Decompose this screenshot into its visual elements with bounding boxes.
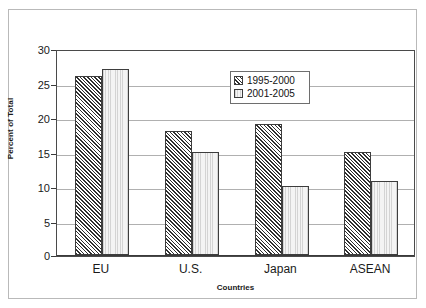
bar[interactable] — [255, 124, 282, 255]
legend-swatch-icon — [234, 89, 243, 98]
bar[interactable] — [192, 152, 219, 255]
legend-item-label: 1995-2000 — [247, 76, 295, 86]
legend-item[interactable]: 1995-2000 — [234, 74, 306, 87]
x-tick-label: EU — [93, 262, 110, 276]
x-axis-line — [57, 255, 414, 256]
legend-item[interactable]: 2001-2005 — [234, 87, 306, 100]
chart-figure: 30 25 20 15 10 5 0 Percent of Total — [0, 0, 426, 308]
bar[interactable] — [102, 69, 129, 255]
bar[interactable] — [344, 152, 371, 255]
chart-legend: 1995-2000 2001-2005 — [230, 71, 310, 104]
bar-group — [326, 49, 416, 255]
x-tick-label: Japan — [264, 262, 297, 276]
legend-item-label: 2001-2005 — [247, 89, 295, 99]
x-tick-label: U.S. — [179, 262, 202, 276]
bar[interactable] — [165, 131, 192, 255]
legend-swatch-icon — [234, 76, 243, 85]
bar[interactable] — [282, 186, 309, 255]
bar-group — [57, 49, 147, 255]
x-axis-tick-labels: EU U.S. Japan ASEAN — [56, 262, 415, 282]
x-axis-title: Countries — [56, 283, 415, 292]
y-axis-title: Percent of Total — [6, 84, 15, 174]
bar-group — [147, 49, 237, 255]
bar[interactable] — [371, 181, 398, 255]
bar[interactable] — [75, 76, 102, 255]
x-tick-label: ASEAN — [350, 262, 391, 276]
